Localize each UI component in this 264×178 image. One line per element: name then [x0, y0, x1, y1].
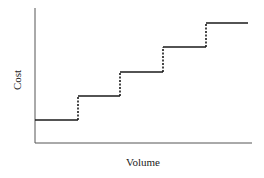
step-cost-chart: Volume Cost	[0, 0, 264, 178]
x-axis-label: Volume	[126, 156, 160, 168]
y-axis-label: Cost	[11, 70, 23, 90]
